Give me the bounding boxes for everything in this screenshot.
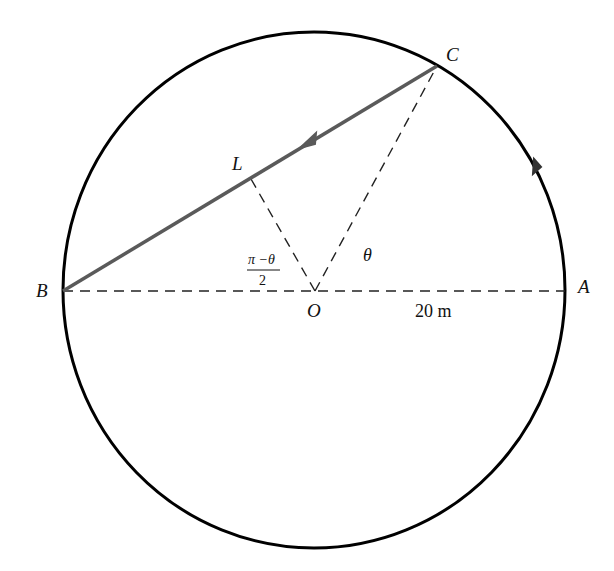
circle-diagram: C L B A O θ π −θ 2 20 m [0, 0, 614, 571]
radius-OC [315, 66, 437, 291]
label-A: A [576, 276, 590, 297]
circle-direction-arrow-icon [533, 159, 541, 174]
half-angle-numerator: π −θ [248, 252, 275, 267]
label-O: O [307, 300, 321, 321]
label-L: L [231, 153, 243, 174]
label-C: C [446, 44, 459, 65]
label-B: B [36, 280, 48, 301]
chord-direction-arrow-icon [300, 133, 316, 148]
radius-label: 20 m [415, 301, 452, 321]
label-theta: θ [363, 245, 372, 265]
half-angle-denominator: 2 [259, 273, 266, 288]
